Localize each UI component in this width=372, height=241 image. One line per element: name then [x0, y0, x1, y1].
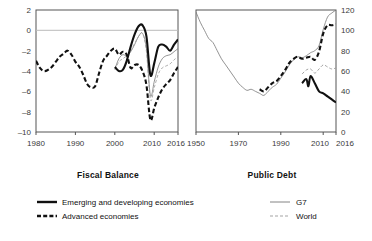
debt-xtick-2016: 2016 [336, 139, 354, 148]
debt-ytick-20: 20 [341, 108, 350, 117]
debt-xtick-2010: 2010 [311, 139, 329, 148]
fiscal-xtick-2000: 2000 [106, 139, 124, 148]
debt-ytick-0: 0 [341, 128, 346, 137]
fiscal-xtick-2016: 2016 [167, 139, 185, 148]
legend-label-emerging: Emerging and developing economies [62, 198, 194, 207]
figure-root: 2 0 –2 –4 –6 –8 –10 1980 1990 [0, 0, 372, 241]
legend-label-advanced: Advanced economies [62, 212, 139, 221]
fiscal-ytick-1: 0 [27, 26, 32, 35]
debt-xtick-1970: 1970 [230, 139, 248, 148]
panel-title-public-debt: Public Debt [248, 170, 297, 180]
fiscal-ytick-5: –8 [22, 108, 31, 117]
legend-label-world: World [296, 212, 317, 221]
fiscal-ytick-2: –2 [22, 47, 31, 56]
fiscal-xtick-1990: 1990 [67, 139, 85, 148]
fiscal-xtick-1980: 1980 [27, 139, 45, 148]
debt-ytick-100: 100 [341, 26, 355, 35]
fiscal-ytick-6: –10 [18, 128, 32, 137]
debt-ytick-120: 120 [341, 6, 355, 15]
fiscal-xtick-2010: 2010 [143, 139, 161, 148]
legend-label-g7: G7 [296, 198, 307, 207]
debt-xtick-1990: 1990 [272, 139, 290, 148]
dual-panel-line-chart: 2 0 –2 –4 –6 –8 –10 1980 1990 [0, 0, 372, 241]
debt-ytick-80: 80 [341, 47, 350, 56]
debt-ytick-60: 60 [341, 67, 350, 76]
debt-xtick-1950: 1950 [187, 139, 205, 148]
fiscal-ytick-0: 2 [27, 6, 32, 15]
panel-title-fiscal-balance: Fiscal Balance [77, 170, 139, 180]
debt-ytick-40: 40 [341, 87, 350, 96]
fiscal-ytick-3: –4 [22, 67, 31, 76]
fiscal-ytick-4: –6 [22, 87, 31, 96]
